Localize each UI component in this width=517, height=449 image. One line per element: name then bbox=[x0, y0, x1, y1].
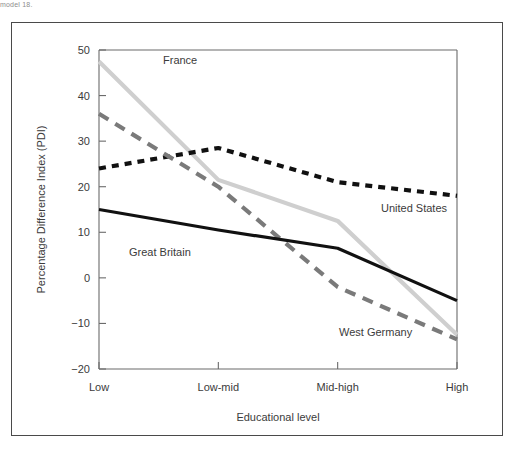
series-line-west-germany bbox=[99, 114, 457, 340]
figure-caption-fragment: model 18. bbox=[0, 0, 160, 14]
figure-root: model 18. −20−1001020304050LowLow-midMid… bbox=[0, 0, 517, 449]
series-label-united-states: United States bbox=[381, 202, 448, 214]
y-tick-label--10: −10 bbox=[71, 317, 90, 329]
x-tick-label-low: Low bbox=[89, 381, 109, 393]
x-tick-label-low-mid: Low-mid bbox=[198, 381, 240, 393]
series-label-west-germany: West Germany bbox=[339, 326, 413, 338]
y-tick-label-0: 0 bbox=[84, 272, 90, 284]
y-tick-label-10: 10 bbox=[78, 226, 90, 238]
x-tick-label-high: High bbox=[446, 381, 469, 393]
line-chart: −20−1001020304050LowLow-midMid-highHighE… bbox=[11, 22, 503, 436]
y-tick-label-30: 30 bbox=[78, 135, 90, 147]
y-axis-title: Percentage Difference Index (PDI) bbox=[35, 126, 47, 294]
plot-area: −20−1001020304050LowLow-midMid-highHighE… bbox=[35, 44, 468, 423]
y-tick-label-20: 20 bbox=[78, 181, 90, 193]
x-tick-label-mid-high: Mid-high bbox=[317, 381, 359, 393]
y-tick-label-40: 40 bbox=[78, 90, 90, 102]
x-axis-title: Educational level bbox=[236, 411, 319, 423]
y-tick-label-50: 50 bbox=[78, 44, 90, 56]
series-label-great-britain: Great Britain bbox=[129, 246, 191, 258]
series-label-france: France bbox=[163, 54, 197, 66]
y-tick-label--20: −20 bbox=[71, 363, 90, 375]
series-line-united-states bbox=[99, 148, 457, 196]
series-line-france bbox=[99, 61, 457, 334]
